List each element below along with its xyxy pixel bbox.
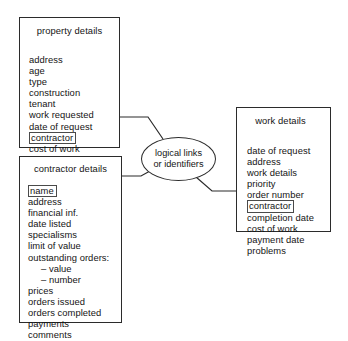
field-row: payment date [247, 229, 330, 240]
entity-title-property-details: property details [20, 25, 119, 36]
field-row: outstanding orders: [28, 247, 121, 258]
field-row: type [29, 71, 119, 82]
entity-box-work-details: work details date of request address wor… [236, 107, 331, 232]
field-row: limit of value [28, 235, 121, 246]
field-row: date of request [247, 140, 330, 151]
field-list-property-details: address age type construction tenant wor… [20, 49, 119, 160]
field-row: financial inf. [28, 202, 121, 213]
field-row: order number [247, 184, 330, 195]
field-problems: problems [247, 245, 286, 256]
field-row: construction [29, 82, 119, 93]
diagram-canvas: property details address age type constr… [0, 0, 348, 341]
field-row: name [28, 180, 121, 191]
field-row: address [29, 49, 119, 60]
field-row: date of request [29, 116, 119, 127]
field-comments: comments [28, 329, 72, 340]
field-row: – number [28, 269, 121, 280]
field-row: comments [28, 324, 121, 335]
field-row: age [29, 60, 119, 71]
entity-title-contractor-details: contractor details [20, 163, 121, 174]
field-row: cost of work [247, 218, 330, 229]
field-row: contractor [29, 127, 119, 138]
entity-box-contractor-details: contractor details name address financia… [19, 156, 122, 323]
field-contractor-key: contractor [247, 200, 294, 212]
field-row: work details [247, 162, 330, 173]
field-row: orders issued [28, 291, 121, 302]
field-name-key: name [28, 185, 57, 197]
link-node-line-2: or identifiers [153, 159, 203, 170]
field-list-work-details: date of request address work details pri… [237, 140, 330, 251]
field-row: orders completed [28, 302, 121, 313]
entity-title-work-details: work details [237, 115, 330, 126]
entity-box-property-details: property details address age type constr… [19, 17, 120, 148]
field-row: work requested [29, 104, 119, 115]
field-list-contractor-details: name address financial inf. date listed … [20, 180, 121, 335]
field-row: specialisms [28, 224, 121, 235]
link-node-line-1: logical links [155, 148, 202, 159]
field-row: contractor [247, 195, 330, 206]
link-node-ellipse: logical links or identifiers [141, 137, 216, 181]
field-contractor-key: contractor [29, 132, 76, 144]
